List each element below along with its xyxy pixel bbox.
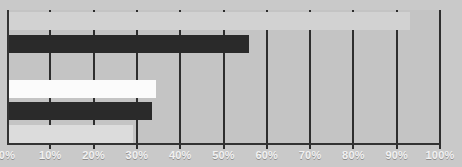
x-tick-label-100: 100% [426, 149, 455, 161]
bar-row [7, 55, 440, 78]
x-tick-label-0: 0% [0, 149, 15, 161]
bar-6[interactable] [7, 125, 133, 143]
x-axis-line [7, 143, 440, 145]
bar-row [7, 10, 440, 33]
bar-row [7, 78, 440, 101]
bar-2[interactable] [7, 35, 249, 53]
x-tick-label-40: 40% [169, 149, 192, 161]
bar-row [7, 100, 440, 123]
x-axis-tick-labels: 0%10%20%30%40%50%60%70%80%90%100% [0, 149, 462, 165]
x-tick-label-10: 10% [39, 149, 62, 161]
x-tick-label-70: 70% [299, 149, 322, 161]
bar-chart: 0%10%20%30%40%50%60%70%80%90%100% [0, 0, 462, 167]
x-tick-label-20: 20% [82, 149, 105, 161]
bar-row [7, 123, 440, 146]
bar-4[interactable] [7, 80, 156, 98]
x-tick-label-90: 90% [385, 149, 408, 161]
x-tick-label-30: 30% [126, 149, 149, 161]
bar-1[interactable] [7, 12, 410, 30]
x-tick-label-50: 50% [212, 149, 235, 161]
bar-row [7, 33, 440, 56]
x-tick-label-80: 80% [342, 149, 365, 161]
x-tick-label-60: 60% [255, 149, 278, 161]
y-axis-line [7, 10, 9, 145]
plot-area [7, 10, 440, 145]
bar-5[interactable] [7, 102, 152, 120]
